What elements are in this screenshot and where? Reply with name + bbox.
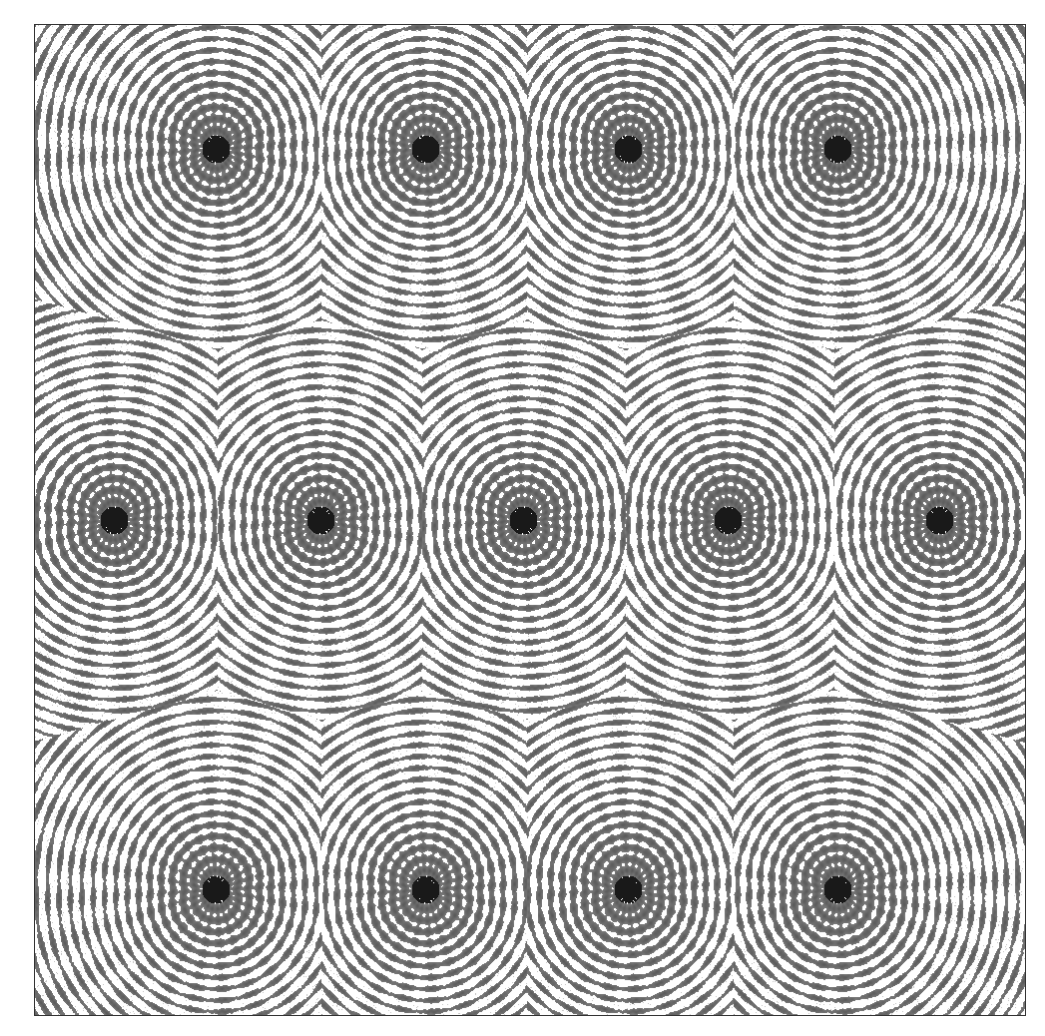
fractal-frame [34,24,1026,1016]
fractal-image [35,25,1025,1015]
